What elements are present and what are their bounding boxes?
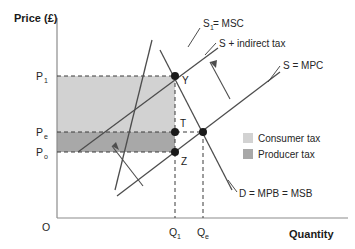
supply-shift-arrow bbox=[210, 60, 230, 99]
y-axis-title: Price (£) bbox=[14, 12, 58, 24]
point-z-marker bbox=[171, 148, 179, 156]
curve-label-msc: S 1 = MSC bbox=[203, 18, 244, 31]
y-tick-p1: P 1 bbox=[36, 70, 48, 84]
point-label-t: T bbox=[180, 118, 186, 129]
y-tick-pe-base: P bbox=[36, 126, 43, 138]
point-t-marker bbox=[171, 128, 179, 136]
curve-label-demand: D = MPB = MSB bbox=[239, 188, 313, 199]
legend-label-producer-tax: Producer tax bbox=[258, 149, 315, 160]
point-equilibrium-marker bbox=[199, 128, 207, 136]
y-tick-po-sub: o bbox=[44, 153, 48, 160]
supply-demand-diagram: Price (£) Quantity O P 1 P e P o Q 1 Q e… bbox=[0, 0, 355, 249]
point-label-z: Z bbox=[181, 156, 187, 167]
x-tick-qe: Q e bbox=[197, 226, 209, 240]
curve-label-msc-rest: = MSC bbox=[213, 18, 244, 29]
curve-label-mpc: S = MPC bbox=[283, 60, 323, 71]
legend-swatch-consumer-tax bbox=[243, 133, 253, 143]
x-tick-qe-sub: e bbox=[205, 233, 209, 240]
y-tick-p1-sub: 1 bbox=[44, 77, 48, 84]
legend: Consumer tax Producer tax bbox=[243, 133, 320, 160]
x-tick-qe-base: Q bbox=[197, 226, 205, 238]
curve-label-s-indirect-tax: S + indirect tax bbox=[219, 38, 285, 49]
legend-label-consumer-tax: Consumer tax bbox=[258, 133, 320, 144]
y-tick-po-base: P bbox=[36, 146, 43, 158]
y-tick-po: P o bbox=[36, 146, 48, 160]
x-axis-title: Quantity bbox=[289, 228, 334, 240]
origin-label: O bbox=[42, 221, 50, 233]
curve-label-msc-base: S bbox=[203, 18, 210, 29]
point-y-marker bbox=[171, 72, 179, 80]
y-tick-pe-sub: e bbox=[44, 133, 48, 140]
point-label-y: Y bbox=[182, 75, 189, 86]
y-tick-p1-base: P bbox=[36, 70, 43, 82]
legend-swatch-producer-tax bbox=[243, 149, 253, 159]
x-tick-q1-base: Q bbox=[169, 226, 177, 238]
msc-leader-line bbox=[188, 28, 200, 47]
x-tick-q1-sub: 1 bbox=[177, 233, 181, 240]
y-tick-pe: P e bbox=[36, 126, 48, 140]
x-tick-q1: Q 1 bbox=[169, 226, 181, 240]
